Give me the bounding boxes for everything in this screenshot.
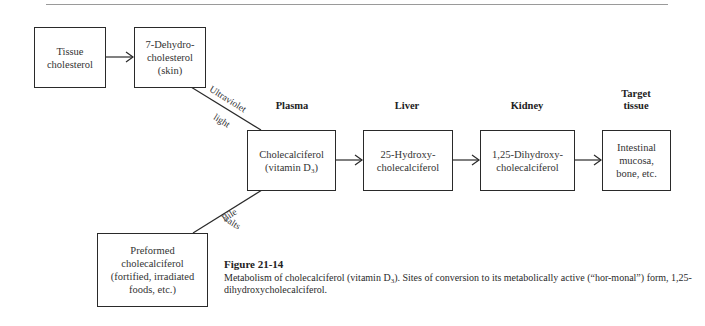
node-text: Cholecalciferol [259, 148, 324, 161]
node-text: (vitamin D3) [259, 161, 324, 174]
figure-label: Figure 21-14 [224, 258, 694, 271]
header-plasma: Plasma [262, 100, 322, 112]
node-text: cholecalciferol [111, 257, 194, 270]
node-text: cholesterol [47, 58, 93, 71]
node-cholecalciferol: Cholecalciferol (vitamin D3) [247, 130, 336, 191]
node-text-part: (vitamin D [265, 162, 311, 173]
node-25-hydroxycholecalciferol: 25-Hydroxy- cholecalciferol [363, 130, 453, 191]
node-text: 7-Dehydro- [146, 38, 195, 51]
node-text: bone, etc. [616, 167, 657, 180]
node-target-tissue: Intestinal mucosa, bone, etc. [602, 130, 671, 191]
node-text: Tissue [47, 45, 93, 58]
node-text: 25-Hydroxy- [377, 148, 439, 161]
header-target-line1: Target [606, 88, 666, 100]
header-kidney: Kidney [497, 100, 557, 112]
node-text: (skin) [146, 64, 195, 77]
node-1-25-dihydroxycholecalciferol: 1,25-Dihydroxy- cholecalciferol [480, 130, 575, 191]
node-text: Intestinal [616, 141, 657, 154]
node-7-dehydrocholesterol: 7-Dehydro- cholesterol (skin) [134, 27, 206, 88]
node-text: cholecalciferol [377, 161, 439, 174]
node-text-part: ) [314, 162, 318, 173]
node-text: cholecalciferol [492, 161, 563, 174]
caption-text-part: Metabolism of cholecalciferol (vitamin D [224, 272, 391, 283]
node-text: 1,25-Dihydroxy- [492, 148, 563, 161]
node-text: Preformed [111, 244, 194, 257]
header-target-line2: tissue [606, 100, 666, 112]
caption-text: Metabolism of cholecalciferol (vitamin D… [224, 272, 692, 296]
node-text: foods, etc.) [111, 283, 194, 296]
node-preformed-cholecalciferol: Preformed cholecalciferol (fortified, ir… [97, 233, 208, 307]
node-text: (fortified, irradiated [111, 270, 194, 283]
node-text: cholesterol [146, 51, 195, 64]
header-target-tissue: Target tissue [606, 88, 666, 112]
figure-caption: Figure 21-14 Metabolism of cholecalcifer… [224, 258, 694, 297]
node-tissue-cholesterol: Tissue cholesterol [34, 27, 106, 88]
node-text: mucosa, [616, 154, 657, 167]
header-liver: Liver [377, 100, 437, 112]
